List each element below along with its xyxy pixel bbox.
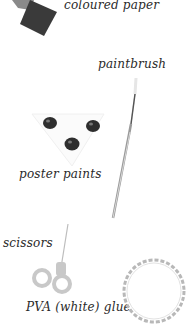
pva-glue-label: PVA (white) glue [26,300,131,314]
poster-paints-illustration [28,108,108,168]
coloured-paper-label: coloured paper [64,0,159,12]
paintbrush-label: paintbrush [98,57,166,71]
poster-paints-label: poster paints [19,167,102,181]
craft-materials-page: coloured paper paintbrush poster paints … [0,0,194,326]
scissors-illustration [28,222,78,297]
pva-glue-illustration [118,253,188,325]
coloured-paper-illustration [0,0,70,40]
